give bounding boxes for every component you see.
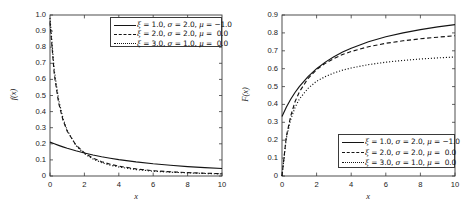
cdf-ytick-0: 0: [260, 172, 278, 180]
pdf-xtick-4: 4: [117, 181, 121, 189]
pdf-ytick-04: 0.4: [28, 108, 46, 116]
cdf-legend-label-3: ξ = 3.0, σ = 1.0, μ = 0.0: [365, 158, 456, 167]
pdf-xaxis-title: x: [134, 192, 138, 201]
cdf-ytick-02: 0.2: [260, 136, 278, 144]
cdf-ytick-03: 0.3: [260, 119, 278, 127]
cdf-xaxis-title: x: [366, 192, 370, 201]
pdf-legend-row-3: ξ = 3.0, σ = 1.0, μ = 0.0: [114, 39, 218, 48]
cdf-yaxis-title: F(x): [241, 87, 250, 101]
pdf-legend-label-2: ξ = 2.0, σ = 2.0, μ = 0.0: [137, 29, 228, 38]
pdf-legend-label-1: ξ = 1.0, σ = 2.0, μ = −1.0: [137, 20, 232, 29]
cdf-ytick-07: 0.7: [260, 47, 278, 55]
pdf-xtick-2: 2: [82, 181, 86, 189]
legend-key-dotted-icon: [114, 39, 136, 48]
cdf-legend-label-2: ξ = 2.0, σ = 2.0, μ = 0.0: [365, 148, 456, 157]
pdf-xtick-0: 0: [48, 181, 52, 189]
legend-key-dotted-icon: [342, 158, 364, 167]
cdf-xtick-6: 6: [384, 181, 388, 189]
cdf-ytick-06: 0.6: [260, 65, 278, 73]
cdf-xtick-8: 8: [418, 181, 422, 189]
cdf-ytick-09: 0.9: [260, 11, 278, 19]
pdf-ytick-07: 0.7: [28, 60, 46, 68]
cdf-ytick-04: 0.4: [260, 101, 278, 109]
cdf-xtick-0: 0: [280, 181, 284, 189]
pdf-ytick-01: 0.1: [28, 156, 46, 164]
pdf-legend: ξ = 1.0, σ = 2.0, μ = −1.0 ξ = 2.0, σ = …: [110, 17, 222, 47]
pdf-xtick-8: 8: [185, 181, 189, 189]
cdf-ytick-08: 0.8: [260, 29, 278, 37]
pdf-ytick-03: 0.3: [28, 124, 46, 132]
legend-key-solid-icon: [342, 138, 364, 147]
cdf-ytick-05: 0.5: [260, 83, 278, 91]
pdf-ytick-08: 0.8: [28, 43, 46, 51]
legend-key-dashed-icon: [114, 30, 136, 39]
pdf-ytick-02: 0.2: [28, 140, 46, 148]
pdf-ytick-09: 0.9: [28, 27, 46, 35]
cdf-ytick-01: 0.1: [260, 154, 278, 162]
pdf-ytick-05: 0.5: [28, 92, 46, 100]
pdf-ytick-06: 0.6: [28, 76, 46, 84]
pdf-yaxis-title: f(x): [9, 89, 18, 101]
legend-key-solid-icon: [114, 20, 136, 29]
pdf-legend-label-3: ξ = 3.0, σ = 1.0, μ = 0.0: [137, 39, 228, 48]
pdf-legend-row-1: ξ = 1.0, σ = 2.0, μ = −1.0: [114, 20, 218, 29]
cdf-legend-row-1: ξ = 1.0, σ = 2.0, μ = −1.0: [342, 137, 451, 147]
legend-key-dashed-icon: [342, 148, 364, 157]
cdf-legend-row-2: ξ = 2.0, σ = 2.0, μ = 0.0: [342, 147, 451, 157]
figure-container: 0 0.1 0.2 0.3 0.4 0.5 0.6 0.7 0.8 0.9 1.…: [0, 0, 467, 207]
cdf-xtick-10: 10: [451, 181, 459, 189]
pdf-legend-row-2: ξ = 2.0, σ = 2.0, μ = 0.0: [114, 29, 218, 38]
cdf-xtick-2: 2: [314, 181, 318, 189]
pdf-panel: 0 0.1 0.2 0.3 0.4 0.5 0.6 0.7 0.8 0.9 1.…: [0, 0, 233, 207]
cdf-legend: ξ = 1.0, σ = 2.0, μ = −1.0 ξ = 2.0, σ = …: [338, 134, 455, 168]
cdf-legend-label-1: ξ = 1.0, σ = 2.0, μ = −1.0: [365, 137, 460, 146]
cdf-legend-row-3: ξ = 3.0, σ = 1.0, μ = 0.0: [342, 157, 451, 167]
pdf-ytick-10: 1.0: [28, 11, 46, 19]
pdf-xtick-6: 6: [151, 181, 155, 189]
cdf-panel: 0 0.1 0.2 0.3 0.4 0.5 0.6 0.7 0.8 0.9 0 …: [233, 0, 466, 207]
cdf-xtick-4: 4: [349, 181, 353, 189]
pdf-ytick-0: 0: [28, 172, 46, 180]
pdf-xtick-10: 10: [218, 181, 226, 189]
